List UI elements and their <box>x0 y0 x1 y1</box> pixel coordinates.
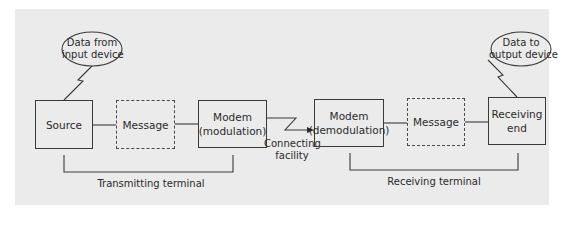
modem-demod-label: Modem <box>330 109 369 123</box>
receiving-end-label: Receiving <box>492 107 543 121</box>
input-bubble-line2: input device <box>62 49 122 61</box>
receiving-terminal-label: Receiving terminal <box>382 176 486 188</box>
modem-demodulation-block: Modem (demodulation) <box>314 99 384 147</box>
transmitting-bracket <box>64 155 233 172</box>
message-tx-block: Message <box>116 100 175 149</box>
modem-mod-sublabel: (modulation) <box>199 124 267 138</box>
receiving-end-block: Receiving end <box>488 97 546 145</box>
receiving-bracket <box>350 153 518 170</box>
message-rx-block: Message <box>407 98 465 146</box>
connecting-facility-line2: facility <box>264 150 320 162</box>
modem-modulation-block: Modem (modulation) <box>198 100 267 148</box>
output-bubble-text: Data to output device <box>489 37 553 61</box>
modem-mod-label: Modem <box>213 110 252 124</box>
transmitting-terminal-label: Transmitting terminal <box>96 178 206 190</box>
input-lightning-icon <box>64 66 92 100</box>
receiving-end-sublabel: end <box>507 121 527 135</box>
message-rx-label: Message <box>413 115 459 129</box>
input-bubble-line1: Data from <box>62 37 122 49</box>
connecting-facility-zigzag-icon <box>267 118 312 130</box>
source-block: Source <box>35 100 93 149</box>
connecting-facility-line1: Connecting <box>264 138 320 150</box>
input-bubble-text: Data from input device <box>62 37 122 61</box>
connecting-facility-label: Connecting facility <box>264 138 320 162</box>
message-tx-label: Message <box>122 118 168 132</box>
modem-demod-sublabel: (demodulation) <box>309 123 390 137</box>
source-label: Source <box>46 118 82 132</box>
output-bubble-line2: output device <box>489 49 553 61</box>
output-bubble-line1: Data to <box>489 37 553 49</box>
